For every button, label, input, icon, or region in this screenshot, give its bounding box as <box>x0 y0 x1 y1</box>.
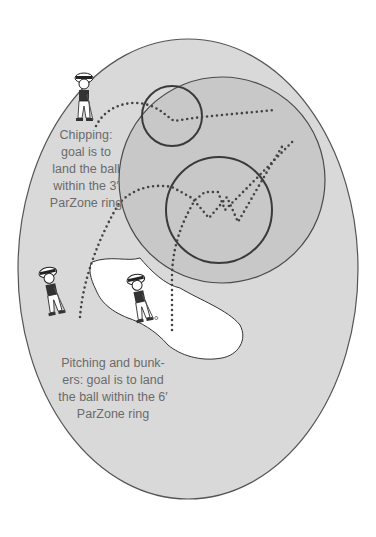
chipping-caption-line: Chipping: <box>46 127 126 144</box>
chipping-caption-line: ParZone ring <box>46 195 126 212</box>
pitching-caption: Pitching and bunk- ers: goal is to land … <box>58 355 168 423</box>
parzone-diagram: Chipping: goal is to land the ball withi… <box>0 0 376 537</box>
chipping-caption-line: goal is to <box>46 144 126 161</box>
pitching-caption-line: the ball within the 6′ <box>58 389 168 406</box>
target-zone-circle <box>119 77 325 283</box>
pitching-caption-line: ers: goal is to land <box>58 372 168 389</box>
chipping-caption: Chipping: goal is to land the ball withi… <box>46 127 126 212</box>
chipping-caption-line: land the ball <box>46 161 126 178</box>
chipping-caption-line: within the 3′ <box>46 178 126 195</box>
pitching-caption-line: Pitching and bunk- <box>58 355 168 372</box>
pitching-caption-line: ParZone ring <box>58 406 168 423</box>
